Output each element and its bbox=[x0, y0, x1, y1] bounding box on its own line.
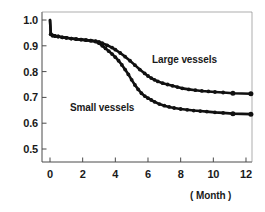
data-point-marker bbox=[133, 63, 137, 67]
series-label-large-vessels: Large vessels bbox=[152, 54, 217, 65]
data-point-marker bbox=[94, 40, 98, 44]
data-point-marker bbox=[167, 105, 171, 109]
data-point-marker bbox=[69, 37, 73, 41]
x-tick-label: 2 bbox=[73, 168, 93, 180]
data-point-marker bbox=[230, 91, 235, 96]
data-point-marker bbox=[172, 106, 176, 110]
data-point-marker bbox=[162, 104, 166, 108]
data-point-marker bbox=[60, 35, 64, 39]
x-axis-ticks bbox=[50, 158, 246, 163]
x-axis-title: ( Month ) bbox=[190, 190, 231, 201]
data-point-marker bbox=[198, 109, 202, 113]
data-point-marker bbox=[221, 91, 225, 95]
data-point-marker bbox=[187, 88, 191, 92]
data-point-marker bbox=[221, 111, 225, 115]
data-point-marker bbox=[193, 88, 197, 92]
data-point-marker bbox=[143, 94, 147, 98]
data-point-marker bbox=[156, 80, 160, 84]
data-point-marker bbox=[166, 83, 170, 87]
series-label-small-vessels: Small vessels bbox=[70, 102, 134, 113]
data-point-marker bbox=[179, 107, 183, 111]
data-point-marker bbox=[123, 55, 127, 59]
y-tick-label: 0.8 bbox=[12, 66, 38, 78]
data-point-marker bbox=[133, 83, 137, 87]
y-tick-label: 0.5 bbox=[12, 143, 38, 155]
data-point-marker bbox=[104, 46, 108, 50]
data-point-marker bbox=[100, 44, 104, 48]
x-tick-label: 6 bbox=[138, 168, 158, 180]
data-point-marker bbox=[171, 84, 175, 88]
y-tick-label: 0.6 bbox=[12, 117, 38, 129]
chart-axes bbox=[42, 12, 252, 162]
data-point-marker bbox=[213, 110, 217, 114]
data-point-marker bbox=[110, 52, 114, 56]
data-point-marker bbox=[89, 39, 93, 43]
y-tick-label: 0.9 bbox=[12, 40, 38, 52]
data-point-marker bbox=[153, 78, 157, 82]
data-point-marker bbox=[248, 112, 253, 117]
data-point-marker bbox=[146, 74, 150, 78]
data-point-marker bbox=[149, 76, 153, 80]
data-point-marker bbox=[113, 55, 117, 59]
data-point-marker bbox=[140, 91, 144, 95]
data-point-marker bbox=[110, 46, 114, 50]
x-tick-label: 8 bbox=[171, 168, 191, 180]
data-point-marker bbox=[123, 68, 127, 72]
data-point-marker bbox=[192, 109, 196, 113]
data-point-marker bbox=[230, 111, 235, 116]
data-point-marker bbox=[213, 90, 217, 94]
data-point-marker bbox=[64, 36, 68, 40]
data-point-marker bbox=[117, 59, 121, 63]
x-tick-label: 4 bbox=[105, 168, 125, 180]
data-point-marker bbox=[53, 34, 57, 38]
data-point-marker bbox=[113, 48, 117, 52]
data-point-marker bbox=[176, 85, 180, 89]
data-point-marker bbox=[185, 108, 189, 112]
data-point-marker bbox=[130, 78, 134, 82]
data-point-marker bbox=[84, 38, 88, 42]
data-point-marker bbox=[180, 86, 184, 90]
x-tick-label: 12 bbox=[236, 168, 256, 180]
x-tick-label: 10 bbox=[203, 168, 223, 180]
data-point-marker bbox=[205, 110, 209, 114]
y-axis-ticks bbox=[42, 20, 47, 149]
data-point-marker bbox=[79, 38, 83, 42]
data-point-marker bbox=[248, 91, 253, 96]
data-point-marker bbox=[143, 72, 147, 76]
x-tick-label: 0 bbox=[40, 168, 60, 180]
data-point-marker bbox=[207, 90, 211, 94]
data-point-marker bbox=[120, 63, 124, 67]
series-line bbox=[50, 20, 251, 94]
data-point-marker bbox=[153, 100, 157, 104]
data-point-marker bbox=[128, 59, 132, 63]
survival-curve-chart: 1.0 0.9 0.8 0.7 0.6 0.5 0 2 4 6 8 10 12 … bbox=[0, 0, 265, 212]
data-point-marker bbox=[126, 73, 130, 77]
data-point-marker bbox=[138, 68, 142, 72]
data-point-marker bbox=[200, 89, 204, 93]
data-point-marker bbox=[161, 81, 165, 85]
data-point-marker bbox=[74, 37, 78, 41]
y-tick-label: 1.0 bbox=[12, 14, 38, 26]
data-point-marker bbox=[149, 98, 153, 102]
y-tick-label: 0.7 bbox=[12, 91, 38, 103]
data-point-marker bbox=[158, 102, 162, 106]
data-point-marker bbox=[97, 41, 101, 45]
data-point-marker bbox=[56, 35, 60, 39]
data-point-marker bbox=[136, 88, 140, 92]
data-point-marker bbox=[118, 51, 122, 55]
data-point-marker bbox=[107, 49, 111, 53]
data-point-marker bbox=[146, 96, 150, 100]
